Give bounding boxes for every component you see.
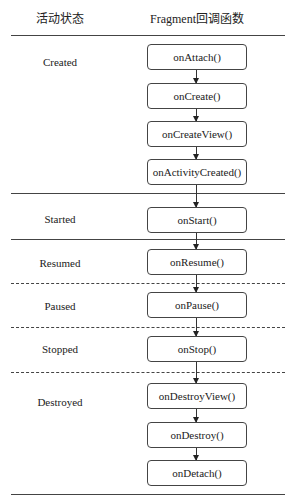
arrow-icon xyxy=(196,109,197,121)
callback-box-onstop: onStop() xyxy=(147,336,247,362)
state-label-destroyed: Destroyed xyxy=(0,396,120,408)
callback-box-ondestroyview: onDestroyView() xyxy=(147,383,247,409)
arrow-icon xyxy=(196,147,197,159)
state-divider xyxy=(11,193,285,194)
header-divider xyxy=(11,35,285,36)
callback-box-onresume: onResume() xyxy=(147,249,247,275)
arrow-icon xyxy=(196,185,197,207)
state-divider-dashed xyxy=(11,327,285,328)
state-label-resumed: Resumed xyxy=(0,257,120,269)
callback-box-ondetach: onDetach() xyxy=(147,460,247,486)
state-label-created: Created xyxy=(0,56,120,68)
state-label-paused: Paused xyxy=(0,300,120,312)
state-label-started: Started xyxy=(0,213,120,225)
callback-box-onactivitycreated: onActivityCreated() xyxy=(147,159,247,185)
callback-box-oncreateview: onCreateView() xyxy=(147,121,247,147)
arrow-icon xyxy=(196,409,197,422)
arrow-icon xyxy=(196,318,197,336)
callback-column-header: Fragment回调函数 xyxy=(150,9,244,27)
arrow-icon xyxy=(196,275,197,292)
state-label-stopped: Stopped xyxy=(0,343,120,355)
state-column-header: 活动状态 xyxy=(36,9,84,27)
callback-box-ondestroy: onDestroy() xyxy=(147,422,247,448)
arrow-icon xyxy=(196,233,197,249)
callback-box-onpause: onPause() xyxy=(147,292,247,318)
callback-box-onattach: onAttach() xyxy=(147,44,247,70)
arrow-icon xyxy=(196,362,197,383)
state-divider-dashed xyxy=(11,372,285,373)
state-divider xyxy=(11,239,285,240)
arrow-icon xyxy=(196,70,197,83)
state-divider-dashed xyxy=(11,283,285,284)
callback-box-oncreate: onCreate() xyxy=(147,83,247,109)
bottom-divider xyxy=(11,494,285,495)
arrow-icon xyxy=(196,448,197,460)
callback-box-onstart: onStart() xyxy=(147,207,247,233)
